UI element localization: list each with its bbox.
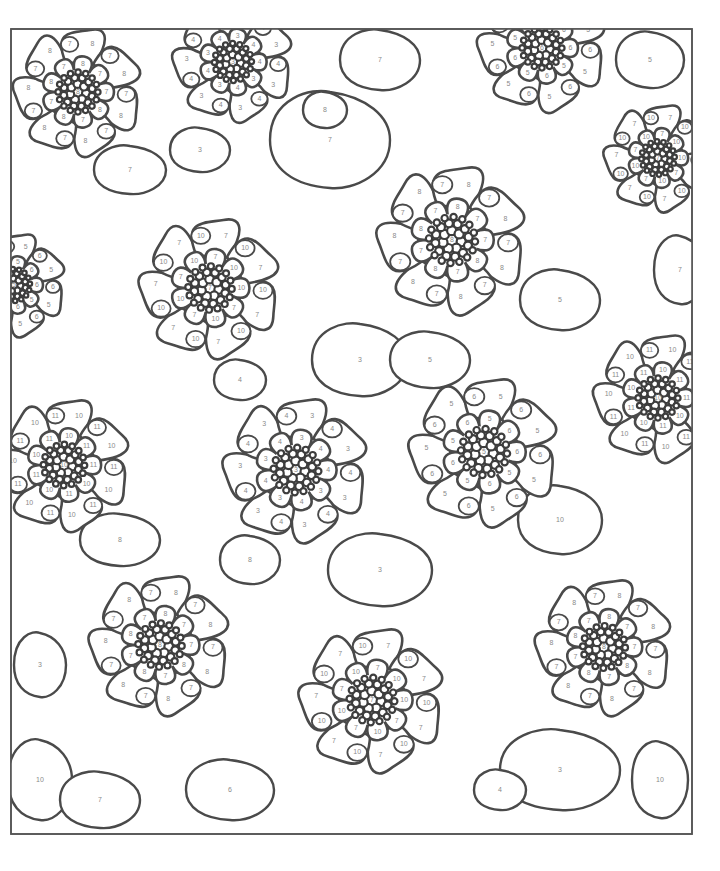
center-bead <box>185 284 191 290</box>
flower-center: 7 <box>185 263 234 312</box>
region-number: 3 <box>300 434 304 441</box>
center-bead <box>5 284 11 290</box>
region-number: 7 <box>108 52 112 59</box>
center-bead <box>223 42 228 47</box>
filler-region: 3 <box>14 632 66 697</box>
filler-region: 8 <box>220 535 280 584</box>
region-number: 7 <box>628 184 632 191</box>
center-bead <box>352 712 358 718</box>
region-number: 10 <box>423 699 431 706</box>
region-number: 10 <box>676 412 684 419</box>
region-number: 7 <box>456 268 460 275</box>
region-number: 10 <box>157 304 165 311</box>
region-number: 3 <box>200 92 204 99</box>
region-number: 7 <box>632 685 636 692</box>
region-number: 7 <box>419 247 423 254</box>
center-number: 7 <box>656 154 660 161</box>
region-number: 11 <box>90 461 97 468</box>
region-number: 10 <box>632 162 640 169</box>
center-bead <box>609 664 615 670</box>
center-bead <box>286 446 292 452</box>
region-number: 7 <box>435 290 439 297</box>
region-number: 10 <box>190 257 198 264</box>
region-number: 10 <box>669 346 677 353</box>
center-bead <box>580 643 586 649</box>
region-number: 5 <box>425 444 429 451</box>
region-number: 8 <box>456 203 460 210</box>
center-bead <box>294 445 300 451</box>
region-number: 8 <box>62 113 66 120</box>
center-bead <box>83 108 88 113</box>
region-number: 7 <box>644 175 648 182</box>
center-bead <box>594 624 600 630</box>
region-number: 7 <box>144 692 148 699</box>
region-number: 10 <box>65 432 73 439</box>
region-number: 7 <box>171 324 175 331</box>
region-number: 3 <box>346 445 350 452</box>
center-bead <box>463 464 469 470</box>
region-number: 7 <box>179 273 183 280</box>
center-bead <box>581 652 587 658</box>
center-bead <box>26 276 30 280</box>
center-bead <box>276 482 282 488</box>
center-bead <box>22 271 26 275</box>
region-number: 10 <box>36 776 44 783</box>
region-number: 8 <box>566 682 570 689</box>
region-number: 7 <box>662 195 666 202</box>
region-number: 3 <box>256 507 260 514</box>
region-number: 3 <box>303 521 307 528</box>
region-number: 4 <box>189 75 193 82</box>
region-number: 7 <box>129 652 133 659</box>
region-number: 10 <box>678 154 686 161</box>
center-bead <box>610 625 616 631</box>
region-number: 7 <box>340 685 344 692</box>
center-bead <box>427 244 433 250</box>
region-number: 4 <box>223 13 227 20</box>
region-number: 4 <box>258 58 262 65</box>
region-number: 10 <box>647 114 655 121</box>
region-number: 8 <box>48 47 52 54</box>
region-number: 10 <box>83 480 91 487</box>
inner-petal: 6 <box>0 259 11 274</box>
region-number: 6 <box>35 281 39 288</box>
inner-petal: 6 <box>0 285 1 300</box>
region-number: 8 <box>549 639 553 646</box>
region-number: 6 <box>515 448 519 455</box>
region-number: 7 <box>440 181 444 188</box>
region-number: 8 <box>607 613 611 620</box>
region-number: 7 <box>109 661 113 668</box>
center-bead <box>464 254 470 260</box>
center-bead <box>671 161 676 166</box>
center-bead <box>200 265 206 271</box>
region-number: 3 <box>206 49 210 56</box>
center-bead <box>558 38 563 43</box>
region-number: 5 <box>512 3 516 10</box>
region-number: 3 <box>185 55 189 62</box>
region-number: 7 <box>255 311 259 318</box>
center-bead <box>315 468 321 474</box>
region-number: 11 <box>46 435 53 442</box>
center-bead <box>471 229 477 235</box>
region-number: 5 <box>583 68 587 75</box>
center-bead <box>648 141 653 146</box>
center-bead <box>525 59 530 64</box>
region-number: 7 <box>379 751 383 758</box>
region-number: 10 <box>25 499 33 506</box>
center-bead <box>600 665 606 671</box>
region-number: 10 <box>212 315 220 322</box>
region-number: 7 <box>506 239 510 246</box>
center-bead <box>150 622 156 628</box>
center-bead <box>674 403 679 408</box>
region-number: 8 <box>174 589 178 596</box>
region-number: 6 <box>51 283 55 290</box>
center-bead <box>224 77 229 82</box>
center-bead <box>391 698 397 704</box>
center-bead <box>54 443 60 449</box>
center-bead <box>47 447 53 453</box>
center-bead <box>164 662 170 668</box>
center-number: 5 <box>12 281 16 288</box>
region-number: 7 <box>154 280 158 287</box>
region-number: 7 <box>338 650 342 657</box>
filler-region: 10 <box>518 485 602 554</box>
center-bead <box>553 59 558 64</box>
